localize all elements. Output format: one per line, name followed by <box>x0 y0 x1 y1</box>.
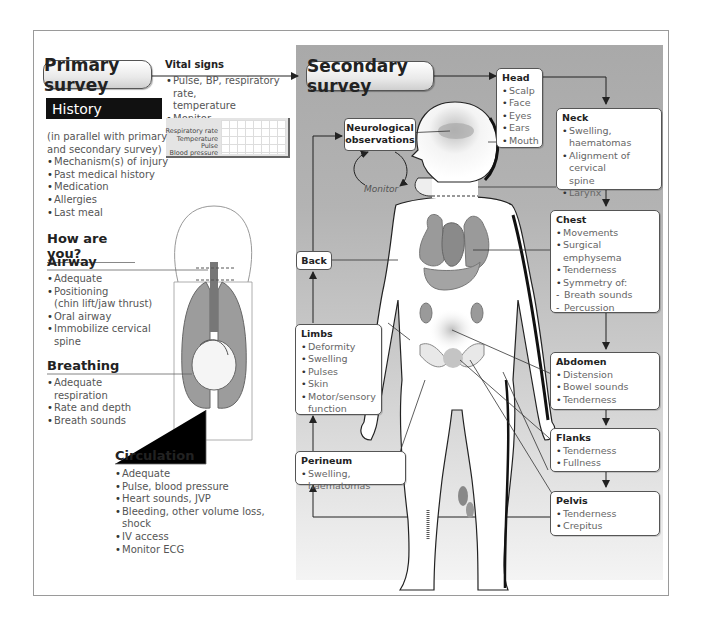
circulation-item: IV access <box>115 531 295 544</box>
flanks-item: Fullness <box>556 457 654 470</box>
history-item: Medication <box>47 181 172 194</box>
chest-item: Symmetry of: <box>556 277 654 290</box>
limbs-item: Motor/sensory <box>301 391 376 404</box>
limbs-item: Swelling <box>301 353 376 366</box>
secondary-survey-button[interactable]: Secondary survey <box>306 61 434 91</box>
neck-item: haematomas <box>562 137 656 150</box>
circulation-list: Adequate Pulse, blood pressure Heart sou… <box>115 468 295 556</box>
perineum-title: Perineum <box>301 455 400 468</box>
breathing-item: Adequate <box>47 377 157 390</box>
vital-signs-item: temperature <box>166 100 296 113</box>
vital-signs-chart: Respiratory rate Temperature Pulse Blood… <box>166 118 290 158</box>
airway-item: Oral airway <box>47 311 172 324</box>
neck-item: Larynx <box>562 187 656 200</box>
vital-signs-item: Pulse, BP, respiratory rate, <box>166 75 296 100</box>
chart-label-respiratory-rate: Respiratory rate <box>165 127 218 135</box>
airway-item: Adequate <box>47 273 172 286</box>
airway-item: (chin lift/jaw thrust) <box>47 298 172 311</box>
abdomen-item: Tenderness <box>556 394 654 407</box>
pelvis-box[interactable]: Pelvis Tenderness Crepitus <box>550 491 660 536</box>
abdomen-title: Abdomen <box>556 356 654 369</box>
flanks-title: Flanks <box>556 432 654 445</box>
circulation-item: Adequate <box>115 468 295 481</box>
head-item: Scalp <box>502 85 537 98</box>
head-title: Head <box>502 72 537 85</box>
airway-item: spine <box>47 336 172 349</box>
chest-item: Surgical emphysema <box>556 239 654 264</box>
limbs-item: Pulses <box>301 366 376 379</box>
abdomen-item: Bowel sounds <box>556 381 654 394</box>
limbs-box[interactable]: Limbs Deformity Swelling Pulses Skin Mot… <box>295 324 382 415</box>
airway-list: Adequate Positioning (chin lift/jaw thru… <box>47 273 172 349</box>
breathing-heading: Breathing <box>47 358 119 374</box>
history-list: (in parallel with primary and secondary … <box>47 131 172 219</box>
airway-heading: Airway <box>47 254 97 270</box>
chest-item: Movements <box>556 227 654 240</box>
circulation-item: Monitor ECG <box>115 544 295 557</box>
circulation-heading: Circulation <box>115 448 194 464</box>
flanks-box[interactable]: Flanks Tenderness Fullness <box>550 428 660 472</box>
back-box[interactable]: Back <box>296 251 332 270</box>
neck-box[interactable]: Neck Swelling, haematomas Alignment of c… <box>556 108 662 190</box>
vital-signs-heading: Vital signs <box>165 59 224 70</box>
limbs-item: Skin <box>301 378 376 391</box>
history-item: Last meal <box>47 207 172 220</box>
chart-grid <box>221 120 286 154</box>
flanks-item: Tenderness <box>556 445 654 458</box>
head-box[interactable]: Head Scalp Face Eyes Ears Mouth <box>496 68 543 148</box>
head-item: Face <box>502 97 537 110</box>
neck-item: spine <box>562 175 656 188</box>
limbs-item: function <box>301 403 376 416</box>
perineum-item: Swelling, haematomas <box>301 468 400 493</box>
circulation-item: Pulse, blood pressure <box>115 481 295 494</box>
head-item: Eyes <box>502 110 537 123</box>
history-item: Allergies <box>47 194 172 207</box>
circulation-item: Bleeding, other volume loss, shock <box>115 506 295 531</box>
neurological-observations-box[interactable]: Neurological observations <box>344 118 416 151</box>
chest-subitem: Breath sounds <box>556 289 654 302</box>
neuro-label-line1: Neurological <box>345 122 415 134</box>
breathing-list: Adequate respiration Rate and depth Brea… <box>47 377 157 427</box>
airway-item: Positioning <box>47 286 172 299</box>
chest-title: Chest <box>556 214 654 227</box>
perineum-box[interactable]: Perineum Swelling, haematomas <box>295 451 406 485</box>
breathing-item: Breath sounds <box>47 415 157 428</box>
pelvis-title: Pelvis <box>556 495 654 508</box>
history-item: Past medical history <box>47 169 172 182</box>
history-intro: (in parallel with primary <box>47 131 172 144</box>
limbs-item: Deformity <box>301 341 376 354</box>
pelvis-item: Crepitus <box>556 520 654 533</box>
breathing-item: Rate and depth <box>47 402 157 415</box>
chest-subitem: Percussion <box>556 302 654 315</box>
head-item: Ears <box>502 122 537 135</box>
chest-box[interactable]: Chest Movements Surgical emphysema Tende… <box>550 210 660 313</box>
chest-item: Tenderness <box>556 264 654 277</box>
pelvis-item: Tenderness <box>556 508 654 521</box>
neck-title: Neck <box>562 112 656 125</box>
abdomen-item: Distension <box>556 369 654 382</box>
abdomen-box[interactable]: Abdomen Distension Bowel sounds Tenderne… <box>550 352 660 410</box>
history-heading: History <box>46 98 162 119</box>
head-item: Mouth <box>502 135 537 148</box>
history-item: Mechanism(s) of injury <box>47 156 172 169</box>
neck-item: Swelling, <box>562 125 656 138</box>
limbs-title: Limbs <box>301 328 376 341</box>
monitor-label: Monitor <box>364 184 398 194</box>
breathing-item: respiration <box>47 390 157 403</box>
circulation-item: Heart sounds, JVP <box>115 493 295 506</box>
airway-item: Immobilize cervical <box>47 323 172 336</box>
primary-anatomy <box>174 206 252 440</box>
history-intro: and secondary survey) <box>47 144 172 157</box>
chart-label-blood-pressure: Blood pressure <box>170 149 219 157</box>
neuro-label-line2: observations <box>345 134 415 146</box>
primary-survey-button[interactable]: Primary survey <box>43 60 152 89</box>
neck-item: Alignment of cervical <box>562 150 656 175</box>
